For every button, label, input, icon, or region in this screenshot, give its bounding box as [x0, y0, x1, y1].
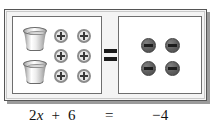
plus-glyph-vertical	[83, 32, 85, 40]
plus-glyph-vertical	[60, 52, 62, 60]
plus-glyph-vertical	[60, 32, 62, 40]
plus-glyph-vertical	[83, 52, 85, 60]
cup-rim	[23, 60, 47, 68]
minus-glyph	[168, 67, 177, 70]
cup-icon	[22, 59, 48, 85]
minus-token-icon	[141, 38, 156, 53]
equation-caption: 2x + 6 = −4	[4, 103, 207, 127]
plus-token-icon	[77, 29, 91, 43]
equation-left-side: 2x + 6	[29, 107, 76, 124]
equation-coefficient: 2	[29, 107, 37, 123]
plus-glyph-vertical	[60, 72, 62, 80]
cup-rim	[23, 27, 47, 35]
plus-token-icon	[54, 49, 68, 63]
cup-icon	[22, 26, 48, 52]
right-expression-panel	[118, 16, 202, 94]
equals-bar-top	[104, 49, 117, 53]
algebra-balance-figure: 2x + 6 = −4	[0, 0, 217, 130]
left-expression-panel	[12, 16, 102, 94]
plus-token-icon	[77, 69, 91, 83]
minus-token-icon	[165, 61, 180, 76]
plus-glyph-vertical	[83, 72, 85, 80]
equals-sign-icon	[104, 47, 117, 63]
equation-operator: +	[51, 107, 60, 123]
minus-glyph	[168, 44, 177, 47]
figure-frame	[4, 9, 207, 101]
plus-token-icon	[54, 29, 68, 43]
cup-rim-inner	[28, 31, 46, 35]
cup-rim-inner	[28, 64, 46, 68]
plus-token-icon	[54, 69, 68, 83]
plus-token-icon	[77, 49, 91, 63]
equation-variable: x	[37, 107, 44, 123]
minus-token-icon	[165, 38, 180, 53]
equation-constant: 6	[68, 107, 76, 123]
equation-right-side: −4	[152, 107, 168, 124]
equals-bar-bottom	[104, 57, 117, 61]
equation-relation: =	[105, 107, 114, 124]
minus-token-icon	[141, 61, 156, 76]
minus-glyph	[144, 67, 153, 70]
minus-glyph	[144, 44, 153, 47]
